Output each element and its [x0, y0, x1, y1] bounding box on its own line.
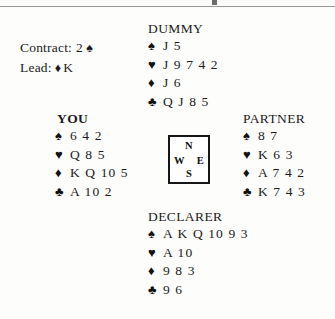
hand-you-hearts-row: ♥ Q 8 5	[55, 146, 129, 165]
hand-you-spades: 6 4 2	[70, 127, 103, 146]
hand-declarer-clubs-row: ♣ 9 6	[148, 281, 249, 300]
diamond-icon: ♦	[148, 262, 163, 281]
hand-partner-clubs: K 7 4 3	[258, 183, 306, 202]
hand-declarer: DECLARER ♠ A K Q 10 9 3 ♥ A 10 ♦ 9 8 3 ♣…	[148, 208, 249, 299]
scan-artifact-mark	[212, 0, 217, 5]
spade-icon: ♠	[83, 39, 95, 58]
heart-icon: ♥	[148, 56, 163, 75]
diamond-icon: ♦	[243, 164, 258, 183]
diamond-icon: ♦	[148, 74, 163, 93]
compass-east: E	[197, 155, 204, 166]
hand-declarer-spades: A K Q 10 9 3	[163, 225, 249, 244]
spade-icon: ♠	[243, 127, 258, 146]
hand-declarer-label: DECLARER	[148, 208, 249, 225]
hand-you: YOU ♠ 6 4 2 ♥ Q 8 5 ♦ K Q 10 5 ♣ A 10 2	[55, 110, 129, 201]
diamond-icon: ♦	[55, 164, 70, 183]
hand-declarer-hearts-row: ♥ A 10	[148, 244, 249, 263]
heart-icon: ♥	[55, 146, 70, 165]
hand-partner-diamonds: A 7 4 2	[258, 164, 305, 183]
compass-west: W	[174, 155, 185, 166]
hand-declarer-spades-row: ♠ A K Q 10 9 3	[148, 225, 249, 244]
contract-label: Contract:	[20, 38, 72, 57]
hand-dummy-spades-row: ♠ J 5	[148, 37, 219, 56]
lead-label: Lead:	[20, 58, 52, 77]
hand-declarer-clubs: 9 6	[163, 281, 183, 300]
lead-row: Lead: ♦ K	[20, 58, 95, 78]
compass-box: N W E S	[168, 135, 210, 184]
hand-partner-clubs-row: ♣ K 7 4 3	[243, 183, 306, 202]
hand-partner-hearts: K 6 3	[258, 146, 294, 165]
contract-info-block: Contract: 2 ♠ Lead: ♦ K	[20, 38, 95, 78]
hand-partner-spades: 8 7	[258, 127, 278, 146]
hand-partner-spades-row: ♠ 8 7	[243, 127, 306, 146]
hand-you-diamonds-row: ♦ K Q 10 5	[55, 164, 129, 183]
club-icon: ♣	[148, 281, 163, 300]
top-rule-artifact	[0, 6, 335, 7]
bridge-hand-diagram: Contract: 2 ♠ Lead: ♦ K DUMMY ♠ J 5 ♥ J …	[0, 0, 335, 319]
spade-icon: ♠	[55, 127, 70, 146]
hand-declarer-hearts: A 10	[163, 244, 193, 263]
compass-south: S	[170, 168, 208, 179]
contract-row: Contract: 2 ♠	[20, 38, 95, 58]
hand-dummy-spades: J 5	[163, 37, 182, 56]
hand-dummy-clubs: Q J 8 5	[163, 93, 209, 112]
hand-dummy-hearts: J 9 7 4 2	[163, 56, 219, 75]
spade-icon: ♠	[148, 37, 163, 56]
hand-dummy: DUMMY ♠ J 5 ♥ J 9 7 4 2 ♦ J 6 ♣ Q J 8 5	[148, 20, 219, 111]
spade-icon: ♠	[148, 225, 163, 244]
contract-level: 2	[72, 38, 83, 57]
diamond-icon: ♦	[52, 59, 63, 78]
hand-dummy-clubs-row: ♣ Q J 8 5	[148, 93, 219, 112]
hand-you-diamonds: K Q 10 5	[70, 164, 129, 183]
club-icon: ♣	[243, 183, 258, 202]
hand-dummy-diamonds: J 6	[163, 74, 182, 93]
hand-you-clubs-row: ♣ A 10 2	[55, 183, 129, 202]
hand-partner-hearts-row: ♥ K 6 3	[243, 146, 306, 165]
hand-dummy-diamonds-row: ♦ J 6	[148, 74, 219, 93]
hand-partner-label: PARTNER	[243, 110, 306, 127]
hand-you-hearts: Q 8 5	[70, 146, 106, 165]
hand-declarer-diamonds-row: ♦ 9 8 3	[148, 262, 249, 281]
hand-you-label: YOU	[57, 110, 129, 127]
hand-you-clubs: A 10 2	[70, 183, 113, 202]
club-icon: ♣	[148, 93, 163, 112]
heart-icon: ♥	[148, 244, 163, 263]
hand-declarer-diamonds: 9 8 3	[163, 262, 196, 281]
hand-dummy-label: DUMMY	[148, 20, 219, 37]
hand-you-spades-row: ♠ 6 4 2	[55, 127, 129, 146]
hand-partner: PARTNER ♠ 8 7 ♥ K 6 3 ♦ A 7 4 2 ♣ K 7 4 …	[243, 110, 306, 201]
hand-dummy-hearts-row: ♥ J 9 7 4 2	[148, 56, 219, 75]
club-icon: ♣	[55, 183, 70, 202]
hand-partner-diamonds-row: ♦ A 7 4 2	[243, 164, 306, 183]
compass-north: N	[170, 140, 208, 151]
heart-icon: ♥	[243, 146, 258, 165]
lead-card: K	[63, 58, 73, 77]
